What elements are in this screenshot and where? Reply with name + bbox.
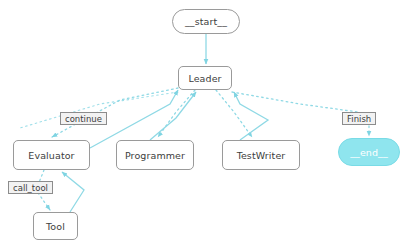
- edge-label-call-tool: call_tool: [8, 181, 53, 194]
- node-programmer[interactable]: Programmer: [116, 140, 194, 170]
- node-evaluator-label: Evaluator: [28, 150, 74, 161]
- edge-leader-to-programmer: [158, 90, 195, 137]
- node-tool-label: Tool: [46, 221, 65, 232]
- node-start-label: __start__: [185, 16, 227, 27]
- edge-testwriter-to-leader: [234, 92, 268, 140]
- edge-label-continue-text: continue: [65, 114, 102, 124]
- node-leader[interactable]: Leader: [178, 66, 232, 90]
- edge-leader-to-testwriter: [216, 90, 252, 137]
- node-testwriter-label: TestWriter: [237, 150, 286, 161]
- node-leader-label: Leader: [188, 73, 221, 84]
- edge-label-finish: Finish: [342, 112, 376, 125]
- node-programmer-label: Programmer: [125, 150, 185, 161]
- node-tool[interactable]: Tool: [33, 212, 78, 240]
- edge-label-continue: continue: [60, 112, 107, 125]
- edge-tool-to-evaluator: [62, 172, 84, 212]
- node-testwriter[interactable]: TestWriter: [222, 140, 300, 170]
- edge-label-call-tool-text: call_tool: [13, 183, 48, 193]
- node-evaluator[interactable]: Evaluator: [13, 140, 90, 170]
- node-start[interactable]: __start__: [172, 9, 240, 34]
- edge-label-finish-text: Finish: [347, 114, 371, 124]
- node-end[interactable]: __end__: [338, 138, 400, 166]
- node-end-label: __end__: [350, 147, 388, 158]
- edge-leader-to-finish: [232, 92, 358, 112]
